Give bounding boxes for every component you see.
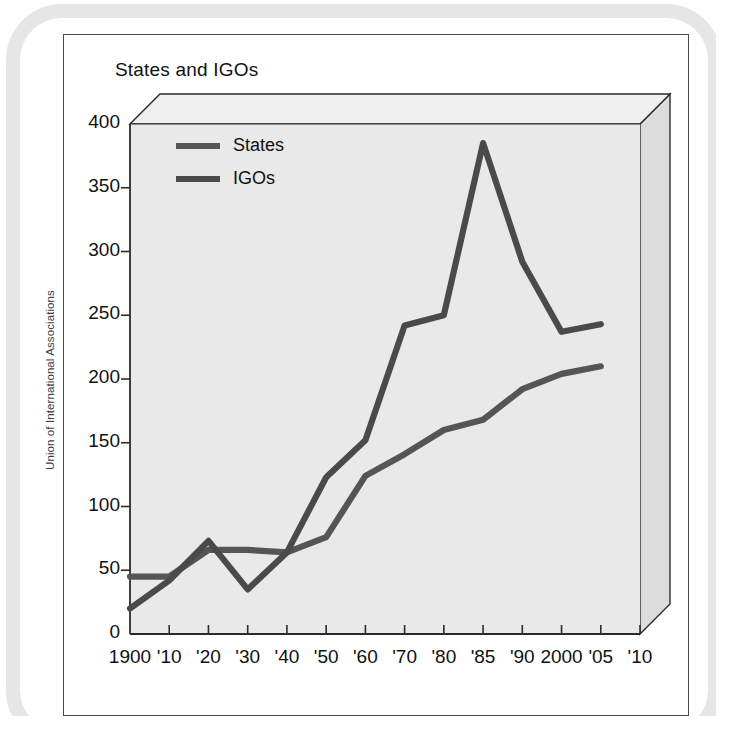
- chart-figure: States and IGOs States IGOs 050100150200…: [63, 34, 689, 716]
- y-axis-tick-label: 0: [66, 621, 120, 643]
- x-axis-tick-label: '10: [609, 646, 671, 668]
- legend-label-igos: IGOs: [233, 168, 275, 189]
- y-axis-tick-label: 400: [66, 111, 120, 133]
- chart-title: States and IGOs: [115, 59, 258, 81]
- legend-swatch-igos: [176, 176, 220, 182]
- legend-item-states: States: [176, 129, 284, 162]
- legend-swatch-states: [176, 143, 220, 149]
- y-axis-tick-label: 300: [66, 239, 120, 261]
- chart-legend: States IGOs: [176, 129, 284, 195]
- y-axis-tick-label: 100: [66, 494, 120, 516]
- chart-3d-plate: [64, 35, 690, 717]
- y-axis-tick-label: 150: [66, 430, 120, 452]
- y-axis-tick-label: 200: [66, 366, 120, 388]
- chart-svg: [64, 35, 690, 717]
- legend-item-igos: IGOs: [176, 162, 284, 195]
- decorative-band-mask-right: [716, 0, 752, 750]
- box-top-face: [130, 94, 670, 124]
- y-axis-tick-label: 350: [66, 175, 120, 197]
- box-right-face: [640, 94, 670, 634]
- source-credit: Union of International Associations: [44, 240, 62, 470]
- legend-label-states: States: [233, 135, 284, 156]
- y-axis-tick-label: 50: [66, 557, 120, 579]
- decorative-band-mask-bottom: [0, 716, 752, 750]
- y-axis-tick-label: 250: [66, 302, 120, 324]
